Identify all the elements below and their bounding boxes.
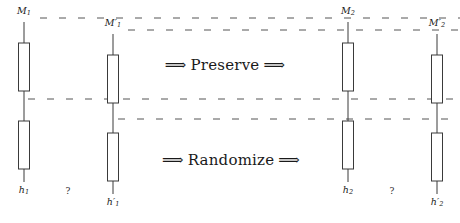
label-h2-prime: h′2	[431, 196, 444, 208]
label-h1-prime: h′1	[107, 196, 120, 208]
label-m2: M2	[341, 5, 355, 17]
label-m1-prime: M′1	[105, 17, 121, 29]
question-mark-right: ?	[390, 186, 395, 196]
label-h2: h2	[343, 184, 353, 196]
arrow-right-preserve: ⟹	[259, 56, 289, 74]
operation-preserve: ⟹Preserve⟹	[161, 56, 289, 74]
label-h1: h1	[19, 184, 29, 196]
col-m1	[19, 22, 30, 182]
col-m2-prime-lower-block	[432, 133, 443, 181]
operation-randomize: ⟹Randomize⟹	[158, 151, 304, 169]
col-m2-prime	[432, 34, 443, 194]
label-m1: M1	[17, 5, 31, 17]
col-m2-upper-block	[343, 43, 354, 91]
operation-preserve-label: Preserve	[191, 56, 260, 74]
col-m2-lower-block	[343, 121, 354, 169]
col-m1-upper-block	[19, 43, 30, 91]
col-m2	[343, 22, 354, 182]
arrow-left-randomize: ⟹	[158, 151, 188, 169]
question-mark-left: ?	[66, 186, 71, 196]
col-m1-prime	[108, 34, 119, 194]
diagram-canvas: M1 M′1 M2 M′2 h1 h′1 h2 h′2 ? ? ⟹Preserv…	[0, 0, 460, 223]
operation-randomize-label: Randomize	[188, 151, 274, 169]
col-m1-prime-lower-block	[108, 133, 119, 181]
col-m1-prime-upper-block	[108, 55, 119, 103]
col-m2-prime-upper-block	[432, 55, 443, 103]
arrow-left-preserve: ⟹	[161, 56, 191, 74]
arrow-right-randomize: ⟹	[274, 151, 304, 169]
col-m1-lower-block	[19, 121, 30, 169]
label-m2-prime: M′2	[429, 17, 445, 29]
